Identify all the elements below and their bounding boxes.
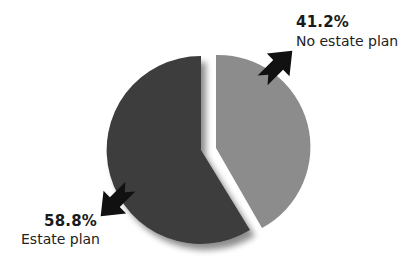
estate-plan-percent: 58.8% bbox=[44, 212, 97, 230]
estate-plan-label: Estate plan bbox=[21, 231, 100, 247]
no-estate-plan-percent: 41.2% bbox=[296, 13, 349, 31]
no-estate-plan-label: No estate plan bbox=[296, 33, 398, 49]
